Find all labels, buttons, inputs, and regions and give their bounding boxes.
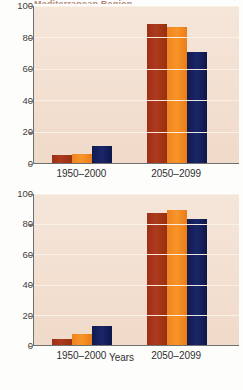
plot-area-top xyxy=(33,6,239,164)
plot-area-bottom xyxy=(33,194,239,346)
bar-series-1-1 xyxy=(52,155,72,163)
gridline xyxy=(34,69,239,70)
x-axis-title: Years xyxy=(0,352,243,363)
gridline xyxy=(34,194,239,195)
bar-group xyxy=(147,194,207,345)
gridline xyxy=(34,100,239,101)
bar-group xyxy=(52,194,112,345)
bar-series-3-1 xyxy=(92,146,112,163)
gridline xyxy=(34,254,239,255)
chart-figure: Mediterranean Region 020406080100 1950–2… xyxy=(0,0,243,390)
y-axis-bottom: 020406080100 xyxy=(0,192,33,372)
bar-series-2-2 xyxy=(167,210,187,345)
bar-group-container-bottom xyxy=(34,194,239,345)
bar-series-3-2 xyxy=(187,219,207,345)
gridline xyxy=(34,132,239,133)
bar-series-1-2 xyxy=(147,213,167,345)
bar-group-container-top xyxy=(34,6,239,163)
chart-panel-top: 020406080100 1950–20002050–2099 xyxy=(0,4,243,190)
y-tick-mark xyxy=(29,164,33,165)
bar-series-2-1 xyxy=(72,334,92,345)
bar-series-1-2 xyxy=(147,24,167,163)
gridline xyxy=(34,224,239,225)
gridline xyxy=(34,6,239,7)
bar-group xyxy=(52,6,112,163)
bar-series-2-1 xyxy=(72,154,92,163)
bar-series-1-1 xyxy=(52,339,72,345)
y-axis-top: 020406080100 xyxy=(0,4,33,190)
bar-series-3-1 xyxy=(92,326,112,345)
gridline xyxy=(34,315,239,316)
bar-series-2-2 xyxy=(167,27,187,163)
x-tick-label: 2050–2099 xyxy=(131,168,221,179)
gridline xyxy=(34,37,239,38)
bar-group xyxy=(147,6,207,163)
gridline xyxy=(34,285,239,286)
chart-panel-bottom: 020406080100 1950–20002050–2099 Years xyxy=(0,192,243,372)
y-tick-mark xyxy=(29,346,33,347)
x-tick-label: 1950–2000 xyxy=(36,168,126,179)
